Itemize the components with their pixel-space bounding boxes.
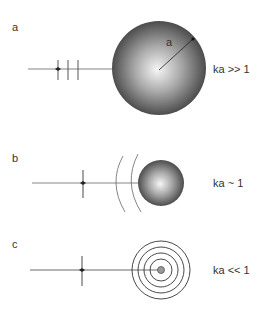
wavelength-arrow-icon xyxy=(79,268,85,272)
panel-c-label: c xyxy=(12,238,18,250)
panel-b xyxy=(32,154,184,212)
panel-b-condition: ka ~ 1 xyxy=(213,177,243,189)
panel-c-condition: ka << 1 xyxy=(213,264,250,276)
panel-b-label: b xyxy=(12,152,18,164)
panel-a xyxy=(28,21,206,115)
wavelength-arrow-icon xyxy=(80,181,86,185)
panel-a-condition: ka >> 1 xyxy=(213,63,250,75)
scattered-wave-arc-1 xyxy=(116,156,125,212)
large-sphere xyxy=(112,21,206,115)
small-sphere xyxy=(158,267,165,274)
panel-a-label: a xyxy=(12,21,18,33)
radius-arrow-icon xyxy=(191,37,194,40)
wavelength-arrow-icon xyxy=(55,67,61,71)
radius-label: a xyxy=(166,36,172,48)
panel-c xyxy=(30,241,190,299)
medium-sphere xyxy=(138,160,184,206)
